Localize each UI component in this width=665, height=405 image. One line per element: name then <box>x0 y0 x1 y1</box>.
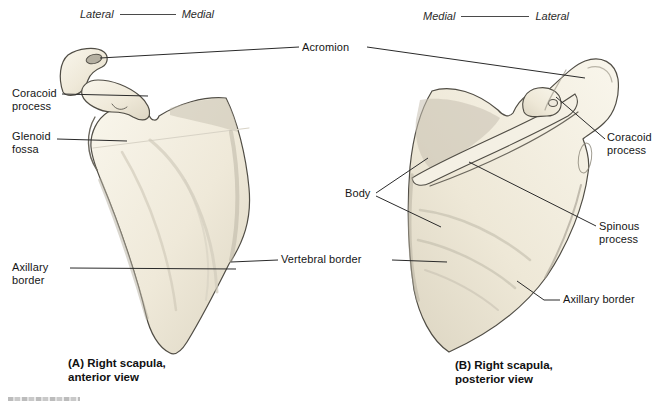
scapula-posterior-drawing <box>408 59 618 352</box>
orientation-right: Medial Lateral <box>423 10 569 22</box>
leader-acromion-right <box>367 47 585 78</box>
caption-panel-a: (A) Right scapula, anterior view <box>68 357 166 385</box>
caption-b-line1: (B) Right scapula, <box>455 359 553 373</box>
orientation-right-line <box>461 16 529 17</box>
orientation-left-line <box>120 14 176 15</box>
label-coracoid-process-a: Coracoid process <box>12 87 70 113</box>
label-body: Body <box>345 187 370 200</box>
label-coracoid-process-b: Coracoid process <box>607 131 665 157</box>
orientation-left: Lateral Medial <box>80 8 214 20</box>
cropped-figure-caption-fragment <box>8 397 80 401</box>
label-acromion: Acromion <box>302 41 349 54</box>
caption-a-line2: anterior view <box>68 371 166 385</box>
label-glenoid-fossa: Glenoid fossa <box>12 130 64 156</box>
label-axillary-border-a: Axillary border <box>12 261 60 287</box>
leader-acromion-left <box>100 47 299 58</box>
anatomy-figure: Lateral Medial Medial Lateral Acromion C… <box>0 0 665 405</box>
orientation-right-lateral: Lateral <box>535 10 569 22</box>
scapula-illustration <box>0 0 665 405</box>
caption-panel-b: (B) Right scapula, posterior view <box>455 359 553 387</box>
orientation-right-medial: Medial <box>423 10 455 22</box>
coracoid-foramen-b <box>549 100 558 107</box>
orientation-left-lateral: Lateral <box>80 8 114 20</box>
caption-b-line2: posterior view <box>455 373 553 387</box>
label-spinous-process: Spinous process <box>599 220 655 246</box>
body-bone-a <box>91 98 250 354</box>
orientation-left-medial: Medial <box>182 8 214 20</box>
label-axillary-border-b: Axillary border <box>563 293 635 306</box>
label-vertebral-border: Vertebral border <box>281 253 361 266</box>
leader-vertebral-left <box>231 260 278 262</box>
caption-a-line1: (A) Right scapula, <box>68 357 166 371</box>
